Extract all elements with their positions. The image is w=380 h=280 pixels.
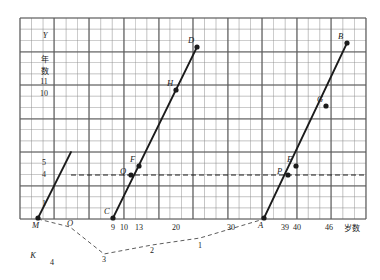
y-tick-1: 1 bbox=[42, 199, 46, 208]
x-tick-13: 13 bbox=[135, 223, 143, 232]
point-label-h: H bbox=[166, 78, 174, 88]
segment-CD bbox=[113, 47, 197, 218]
y-tick-11: 11 bbox=[40, 77, 48, 86]
point-label-m: M bbox=[31, 220, 40, 230]
point-b[interactable] bbox=[344, 40, 349, 45]
below-axis-label-k: K bbox=[29, 250, 37, 260]
x-axis-title: 岁数 bbox=[344, 223, 360, 233]
x-tick-9: 9 bbox=[111, 223, 115, 232]
below-axis-number-3: 3 bbox=[102, 255, 106, 264]
coordinate-graph: MCQFHDAPEGB1110541910132030394046Y年数岁数OK… bbox=[0, 0, 380, 280]
point-label-d: D bbox=[187, 35, 195, 45]
below-axis-number-1: 1 bbox=[198, 241, 202, 250]
point-e[interactable] bbox=[293, 163, 298, 168]
segment-AB bbox=[264, 43, 347, 218]
x-tick-30: 30 bbox=[227, 223, 235, 232]
x-axis-ticks: 910132030394046 bbox=[111, 223, 333, 232]
y-tick-5: 5 bbox=[42, 158, 46, 167]
point-label-g: G bbox=[317, 94, 323, 104]
point-q[interactable] bbox=[128, 172, 133, 177]
x-tick-10: 10 bbox=[120, 223, 128, 232]
x-tick-40: 40 bbox=[293, 223, 301, 232]
y-axis-title-char1: 年 bbox=[41, 54, 49, 64]
y-axis-symbol: Y bbox=[43, 30, 49, 40]
point-f[interactable] bbox=[136, 163, 141, 168]
x-tick-46: 46 bbox=[325, 223, 333, 232]
point-label-a: A bbox=[257, 220, 264, 230]
point-d[interactable] bbox=[194, 44, 199, 49]
x-tick-20: 20 bbox=[172, 223, 180, 232]
y-tick-4: 4 bbox=[42, 170, 46, 179]
point-label-e: E bbox=[286, 154, 293, 164]
point-g[interactable] bbox=[323, 103, 328, 108]
grid-major bbox=[20, 18, 366, 219]
x-tick-39: 39 bbox=[281, 223, 289, 232]
y-axis-ticks: 1110541 bbox=[40, 77, 48, 208]
y-axis-title-char2: 数 bbox=[41, 66, 49, 76]
below-axis-number-2: 2 bbox=[150, 246, 154, 255]
y-tick-10: 10 bbox=[40, 89, 48, 98]
point-p[interactable] bbox=[285, 172, 290, 177]
point-label-b: B bbox=[338, 31, 343, 41]
point-label-c: C bbox=[104, 206, 110, 216]
below-axis-label-o: O bbox=[67, 218, 73, 228]
point-h[interactable] bbox=[173, 87, 178, 92]
below-axis-number-4: 4 bbox=[50, 258, 54, 267]
figure-canvas: MCQFHDAPEGB1110541910132030394046Y年数岁数OK… bbox=[0, 0, 380, 280]
point-c[interactable] bbox=[110, 215, 115, 220]
point-label-p: P bbox=[276, 166, 282, 176]
point-label-q: Q bbox=[120, 166, 126, 176]
point-label-f: F bbox=[129, 154, 136, 164]
